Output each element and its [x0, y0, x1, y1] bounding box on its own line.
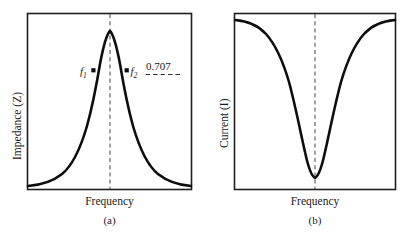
panel-b: Current (I) Frequency (b) [218, 14, 396, 228]
panel-a: f1 f2 0.707 Impedance (Z) Frequency (a) [11, 14, 192, 228]
panel-a-half-power-label: 0.707 [146, 60, 171, 72]
panel-a-caption: (a) [103, 214, 116, 227]
panel-b-x-axis-label: Frequency [291, 195, 340, 208]
panel-b-caption: (b) [309, 214, 322, 227]
panel-a-y-axis-label: Impedance (Z) [11, 92, 24, 160]
panel-a-f2-label: f2 [131, 65, 138, 80]
panel-b-y-axis-label: Current (I) [218, 98, 231, 148]
panel-a-x-axis-label: Frequency [85, 195, 134, 208]
panel-a-f1-marker [91, 68, 95, 72]
resonance-figure: f1 f2 0.707 Impedance (Z) Frequency (a) [0, 0, 412, 233]
panel-a-f1-label: f1 [80, 65, 87, 80]
panel-a-f2-marker [125, 68, 129, 72]
